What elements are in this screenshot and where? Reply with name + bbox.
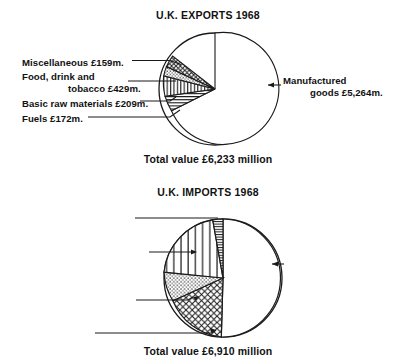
imports-chart-block: U.K. IMPORTS 1968: [0, 180, 416, 361]
exports-total-value: Total value £6,233 million: [0, 153, 416, 165]
exports-label-manufactured-goods: Manufactured goods £5,264m.: [283, 75, 383, 99]
exports-label-miscellaneous-text: Miscellaneous £159m.: [22, 57, 124, 68]
exports-chart-block: U.K. EXPORTS 1968: [0, 0, 416, 180]
imports-pie-graphic: [0, 180, 416, 361]
figure-page: U.K. EXPORTS 1968: [0, 0, 416, 361]
exports-label-fuels-text: Fuels £172m.: [22, 113, 83, 124]
exports-label-basic-raw-text: Basic raw materials £209m.: [22, 98, 148, 109]
exports-label-basic-raw-materials: Basic raw materials £209m.: [22, 98, 148, 110]
exports-label-manufactured-line2: goods £5,264m.: [283, 87, 383, 99]
imports-slice-manufactured-goods: [221, 219, 280, 337]
exports-label-miscellaneous: Miscellaneous £159m.: [22, 57, 124, 69]
exports-label-food-drink-tobacco: Food, drink and tobacco £429m.: [22, 71, 141, 95]
exports-label-food-line2: tobacco £429m.: [22, 83, 141, 95]
exports-label-food-line1: Food, drink and: [22, 71, 95, 82]
exports-label-manufactured-line1: Manufactured: [283, 75, 347, 86]
exports-label-fuels: Fuels £172m.: [22, 113, 83, 125]
imports-total-value: Total value £6,910 million: [0, 345, 416, 357]
